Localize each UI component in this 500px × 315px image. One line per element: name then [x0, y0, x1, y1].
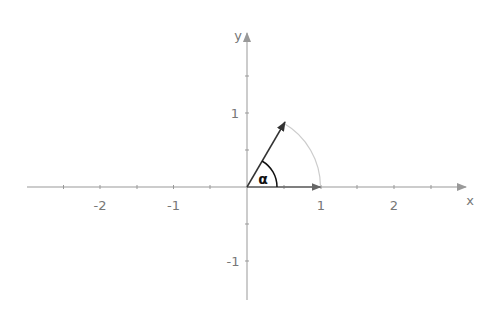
angle-alpha-label: α — [258, 171, 268, 187]
y-axis: 1 -1 y — [227, 28, 249, 300]
y-axis-label: y — [234, 28, 242, 43]
x-tick-label: -2 — [94, 198, 107, 213]
x-tick-label: -1 — [167, 198, 180, 213]
coordinate-diagram: -2 -1 1 2 x 1 -1 y α — [0, 0, 500, 315]
x-tick-label: 2 — [390, 198, 398, 213]
x-tick-label: 1 — [317, 198, 325, 213]
y-tick-label: 1 — [231, 106, 239, 121]
x-axis-label: x — [466, 193, 474, 208]
unit-circle-arc — [284, 123, 321, 187]
x-axis: -2 -1 1 2 x — [27, 185, 474, 213]
y-tick-label: -1 — [227, 254, 240, 269]
